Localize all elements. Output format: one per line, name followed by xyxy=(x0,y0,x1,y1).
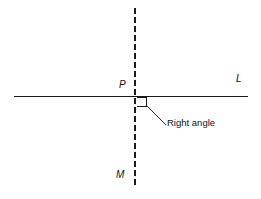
label-line-l: L xyxy=(236,74,242,84)
label-point-p: P xyxy=(119,80,126,90)
label-right-angle-annotation: Right angle xyxy=(167,118,215,128)
right-angle-square-icon xyxy=(137,97,146,106)
annotation-leader-line xyxy=(147,106,166,125)
diagram-svg xyxy=(0,0,261,199)
geometry-diagram-canvas: P L M Right angle xyxy=(0,0,261,199)
label-line-m: M xyxy=(116,170,124,180)
